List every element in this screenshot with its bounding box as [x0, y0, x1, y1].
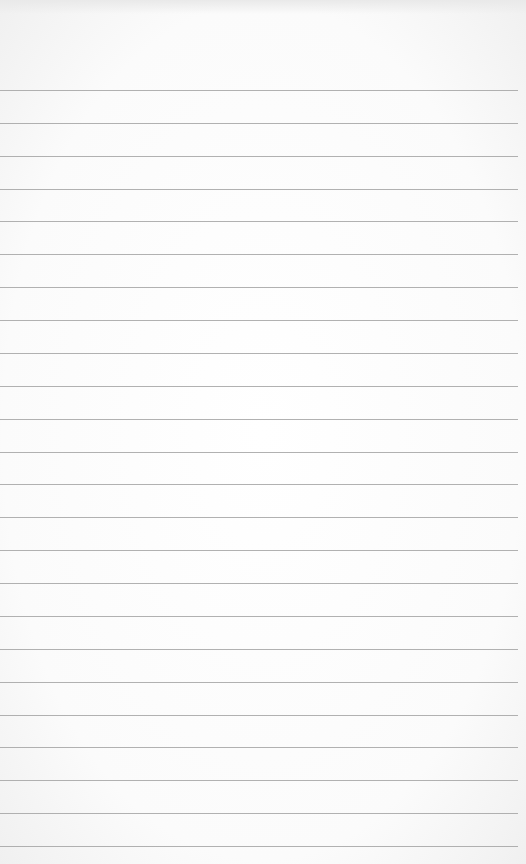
lined-paper	[0, 0, 526, 864]
ruled-line	[0, 386, 518, 387]
ruled-line	[0, 287, 518, 288]
ruled-line	[0, 484, 518, 485]
ruled-line	[0, 846, 518, 847]
ruled-line	[0, 123, 518, 124]
ruled-line	[0, 550, 518, 551]
paper-top-edge	[0, 0, 526, 14]
ruled-line	[0, 517, 518, 518]
ruled-line	[0, 780, 518, 781]
ruled-line	[0, 254, 518, 255]
ruled-line	[0, 682, 518, 683]
ruled-line	[0, 813, 518, 814]
ruled-line	[0, 419, 518, 420]
ruled-line	[0, 616, 518, 617]
ruled-line	[0, 221, 518, 222]
ruled-line	[0, 189, 518, 190]
ruled-line	[0, 452, 518, 453]
ruled-line	[0, 715, 518, 716]
ruled-line	[0, 320, 518, 321]
ruled-line	[0, 649, 518, 650]
ruled-line	[0, 583, 518, 584]
ruled-line	[0, 156, 518, 157]
ruled-line	[0, 90, 518, 91]
ruled-line	[0, 747, 518, 748]
ruled-line	[0, 353, 518, 354]
